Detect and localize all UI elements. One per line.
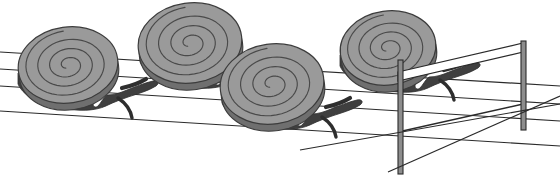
finish-post-left — [398, 60, 403, 174]
illustration-canvas — [0, 0, 560, 182]
finish-post-right — [521, 41, 526, 130]
snail-race-illustration — [0, 0, 560, 182]
